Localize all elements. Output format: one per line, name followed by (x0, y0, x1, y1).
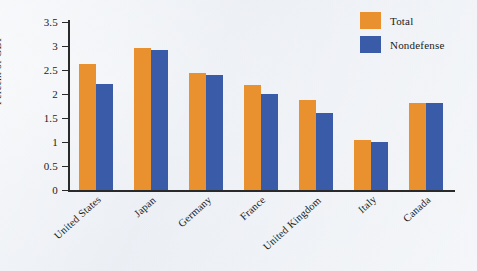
bar-nondefense (151, 50, 168, 190)
x-tick-label: United States (52, 194, 103, 242)
bar-total (244, 85, 261, 190)
bar-nondefense (426, 103, 443, 190)
bar-group (79, 22, 113, 190)
bar-total (134, 48, 151, 190)
x-tick-label: United Kingdom (261, 194, 323, 251)
y-tick-label: 3.5 (44, 16, 58, 28)
y-tick-label: 1 (52, 136, 58, 148)
legend-swatch-total-icon (360, 12, 381, 29)
legend-swatch-nondefense-icon (360, 36, 381, 53)
legend-item-total: Total (360, 12, 445, 29)
bar-total (409, 103, 426, 190)
bar-group (134, 22, 168, 190)
y-tick-label: 1.5 (44, 112, 58, 124)
bar-nondefense (206, 75, 223, 190)
bar-nondefense (96, 84, 113, 190)
chart-legend: Total Nondefense (360, 12, 445, 53)
x-tick-label: Canada (401, 194, 433, 224)
x-tick-label: France (238, 194, 267, 222)
y-tick-mark (62, 190, 68, 191)
y-tick-label: 3 (52, 40, 58, 52)
y-tick-label: 2.5 (44, 64, 58, 76)
bar-total (299, 100, 316, 190)
bar-total (354, 140, 371, 190)
bar-group (299, 22, 333, 190)
bar-group (244, 22, 278, 190)
legend-label-nondefense: Nondefense (390, 39, 445, 51)
x-tick-label: Germany (176, 194, 213, 229)
legend-item-nondefense: Nondefense (360, 36, 445, 53)
bar-total (79, 64, 96, 190)
y-axis-title: Percent of GDP (0, 36, 3, 105)
bar-nondefense (371, 142, 388, 190)
bar-total (189, 73, 206, 190)
y-tick-label: 0.5 (44, 160, 58, 172)
x-axis-labels: United StatesJapanGermanyFranceUnited Ki… (68, 192, 453, 270)
y-tick-label: 2 (52, 88, 58, 100)
x-tick-label: Japan (132, 194, 158, 219)
chart-figure: Percent of GDP 3.532.521.510.50 United S… (0, 0, 477, 271)
bar-nondefense (261, 94, 278, 190)
bar-nondefense (316, 113, 333, 190)
y-tick-label: 0 (52, 184, 58, 196)
bar-group (189, 22, 223, 190)
x-tick-label: Italy (356, 194, 378, 216)
legend-label-total: Total (390, 15, 413, 27)
